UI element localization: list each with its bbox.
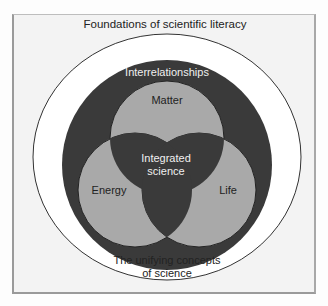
bottom-label-line2: of science [142,267,192,279]
ring-label: Interrelationships [125,66,209,78]
outer-label: Foundations of scientific literacy [84,18,247,30]
center-label-line1: Integrated [141,152,191,164]
bottom-label-line1: The unifying concepts [113,254,221,266]
center-label-line2: science [147,165,184,177]
venn-diagram: Foundations of scientific literacy Inter… [0,0,328,306]
matter-label: Matter [151,94,183,106]
life-label: Life [219,184,237,196]
energy-label: Energy [92,184,127,196]
